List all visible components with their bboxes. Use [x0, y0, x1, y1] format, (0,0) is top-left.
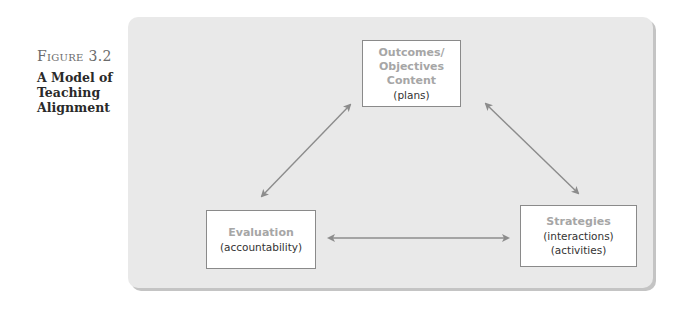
node-strategies: Strategies (interactions) (activities): [520, 205, 637, 267]
arrow-top-strategies: [486, 104, 578, 193]
figure-label: Figure 3.2: [37, 48, 177, 64]
node-detail: (activities): [521, 243, 636, 257]
node-heading: Outcomes/: [363, 46, 460, 60]
node-outcomes-objectives-content: Outcomes/ Objectives Content (plans): [362, 40, 461, 107]
figure-caption: Figure 3.2 A Model of Teaching Alignment: [37, 48, 177, 115]
figure-title: A Model of Teaching Alignment: [37, 70, 177, 115]
node-detail: (interactions): [521, 229, 636, 243]
node-heading: Evaluation: [207, 226, 315, 240]
arrow-top-evaluation: [262, 105, 350, 196]
node-detail: (accountability): [207, 240, 315, 254]
node-heading: Strategies: [521, 215, 636, 229]
node-detail: (plans): [363, 88, 460, 102]
node-heading: Content: [363, 74, 460, 88]
node-heading: Objectives: [363, 60, 460, 74]
node-evaluation: Evaluation (accountability): [206, 210, 316, 269]
